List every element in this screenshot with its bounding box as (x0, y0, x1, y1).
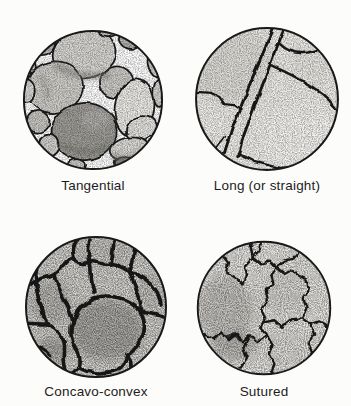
sutured-micrograph (193, 237, 335, 379)
panel-caption-sutured: Sutured (240, 384, 289, 399)
concavo-convex-micrograph (21, 232, 171, 382)
grain-contacts-figure: Tangential (0, 0, 351, 406)
long-straight-micrograph (191, 23, 343, 175)
panel-sutured: Sutured (193, 237, 335, 399)
panel-caption-tangential: Tangential (61, 178, 125, 193)
panel-caption-long-or-straight: Long (or straight) (214, 178, 320, 193)
panel-long-or-straight: Long (or straight) (191, 23, 343, 193)
panel-tangential: Tangential (19, 26, 167, 193)
panel-caption-concavo-convex: Concavo-convex (44, 384, 147, 399)
panel-concavo-convex: Concavo-convex (21, 232, 171, 399)
tangential-micrograph (19, 26, 167, 174)
